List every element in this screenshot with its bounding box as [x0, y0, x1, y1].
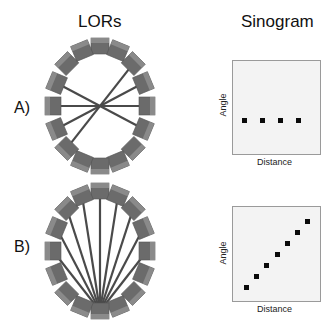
detector-cube-icon — [133, 72, 155, 95]
detector-cube-icon — [91, 38, 109, 54]
sinogram-a-plot — [232, 60, 321, 155]
sinogram-point — [278, 118, 283, 123]
sinogram-point — [305, 219, 310, 224]
detector-cube-icon — [46, 72, 68, 95]
sinogram-point — [275, 252, 280, 257]
detector-cube-icon — [91, 158, 109, 174]
sinogram-b-ylabel: Angle — [218, 241, 228, 264]
detector-cube-icon — [46, 118, 68, 141]
detector-cube-icon — [91, 183, 109, 199]
detector-cube-icon — [139, 242, 155, 260]
sinogram-point — [295, 230, 300, 235]
sinogram-point — [285, 241, 290, 246]
sinogram-point — [254, 274, 259, 279]
sinogram-point — [296, 118, 301, 123]
detector-cube-icon — [46, 217, 68, 240]
sinogram-point — [260, 118, 265, 123]
sinogram-point — [244, 285, 249, 290]
detector-cube-icon — [91, 303, 109, 319]
sinogram-b-xlabel: Distance — [257, 304, 292, 314]
detector-cube-icon — [133, 118, 155, 141]
detector-cube-icon — [133, 217, 155, 240]
detector-cube-icon — [139, 97, 155, 115]
sinogram-a-xlabel: Distance — [257, 157, 292, 167]
sinogram-point — [242, 118, 247, 123]
sinogram-point — [264, 263, 269, 268]
detector-cube-icon — [45, 97, 61, 115]
detector-cube-icon — [45, 242, 61, 260]
sinogram-a-ylabel: Angle — [218, 93, 228, 116]
